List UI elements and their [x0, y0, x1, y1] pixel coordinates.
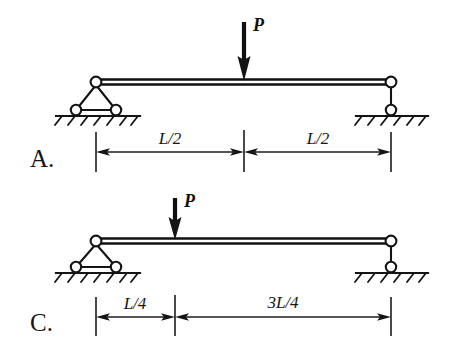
ground-hatching-left-c [55, 273, 138, 282]
beam-diagram-figure: P [0, 0, 450, 355]
dimensions-c: L/4 3L/4 [96, 293, 391, 336]
roller-node-right-a [386, 105, 396, 115]
roller-node-left-a-2 [111, 105, 121, 115]
dimensions-a: L/2 L/2 [96, 129, 391, 172]
diagram-c: P [30, 191, 428, 336]
load-label-a: P [252, 15, 265, 35]
roller-node-right-c [386, 262, 396, 272]
option-label-a: A. [30, 145, 54, 172]
dim-label-a-1: L/2 [158, 129, 182, 148]
pin-node-right-a [386, 77, 397, 88]
load-arrow-c [169, 198, 182, 240]
ground-hatching-left-a [55, 116, 138, 125]
load-arrow-a [238, 22, 251, 81]
pin-node-left-a [91, 77, 102, 88]
ground-hatching-right-a [355, 116, 426, 125]
roller-node-left-a-1 [71, 105, 81, 115]
figure-canvas: P [0, 0, 450, 355]
beam-a [95, 80, 393, 85]
load-label-c: P [183, 191, 196, 211]
dim-label-a-2: L/2 [306, 129, 330, 148]
pin-node-left-c [91, 236, 102, 247]
diagram-a: P [30, 15, 428, 172]
dim-label-c-2: 3L/4 [266, 293, 299, 312]
roller-node-left-c-2 [111, 262, 121, 272]
option-label-c: C. [30, 309, 53, 336]
roller-node-left-c-1 [71, 262, 81, 272]
dim-label-c-1: L/4 [123, 294, 147, 313]
beam-c [95, 239, 393, 244]
ground-hatching-right-c [355, 273, 426, 282]
pin-node-right-c [386, 236, 397, 247]
